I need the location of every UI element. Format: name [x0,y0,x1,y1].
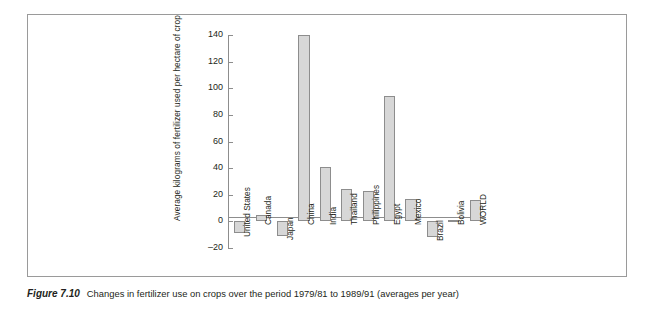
y-tick-label: 60 [213,136,223,147]
y-tick-label: 100 [208,82,223,93]
y-tick-label: 80 [213,109,223,120]
x-axis-category-label: Egypt [393,204,402,225]
bar [298,35,309,221]
y-tick-label: 0 [218,215,223,226]
figure-caption-text: Changes in fertilizer use on crops over … [87,288,459,299]
y-tick: –20 [228,248,233,249]
figure-container: Average kilograms of fertilizer used per… [0,0,650,318]
x-axis-category-label: Canada [264,196,273,225]
y-axis-title: Average kilograms of fertilizer used per… [172,0,182,243]
x-axis-category-label: United States [243,188,252,238]
bar [384,96,395,221]
y-tick-mark [228,248,233,249]
figure-caption: Figure 7.10Changes in fertilizer use on … [27,288,627,300]
x-axis-category-label: Brazil [436,221,445,242]
x-axis-category-label: India [329,207,338,225]
figure-number: Figure 7.10 [27,288,80,299]
y-tick-label: 140 [208,29,223,40]
x-axis-category-label: Japan [286,217,295,240]
x-axis-category-label: Philippines [372,185,381,225]
y-tick-label: 20 [213,189,223,200]
y-tick-label: 40 [213,162,223,173]
x-axis-category-label: Bolivia [457,201,466,225]
bar-chart: Average kilograms of fertilizer used per… [176,17,496,275]
chart-frame: Average kilograms of fertilizer used per… [27,14,627,277]
x-axis-category-label: Mexico [414,199,423,225]
x-axis-category-label: WORLD [479,194,488,225]
plot-area: United StatesCanadaJapanChinaIndiaThaila… [229,35,486,248]
x-axis-category-label: China [307,204,316,226]
y-tick-label: –20 [208,242,223,253]
x-axis-category-label: Thailand [350,194,359,226]
y-tick-label: 120 [208,56,223,67]
